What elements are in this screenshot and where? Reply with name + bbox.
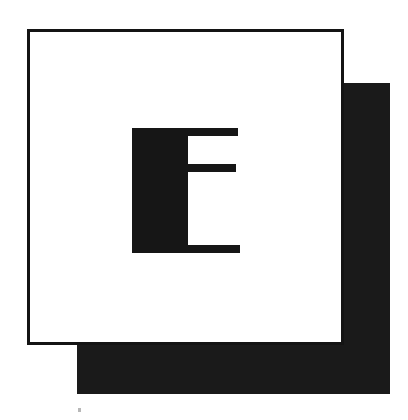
glyph-arm-middle xyxy=(184,164,236,172)
logo-canvas: E xyxy=(0,0,408,420)
glyph-arm-bottom xyxy=(184,245,240,253)
scan-artifact-speck xyxy=(78,408,81,412)
monogram-letter-text: E xyxy=(0,0,1,1)
glyph-arm-top xyxy=(184,128,238,136)
letter-e-monogram xyxy=(132,128,238,253)
glyph-stem xyxy=(132,128,188,253)
